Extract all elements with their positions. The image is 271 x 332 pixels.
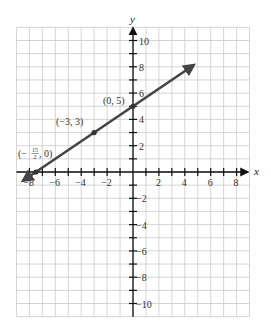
x-tick-label: −6 bbox=[49, 177, 60, 188]
y-tick-label: 6 bbox=[139, 88, 144, 99]
y-tick-label: 4 bbox=[139, 114, 144, 125]
svg-text:, 0): , 0) bbox=[39, 148, 52, 160]
y-axis-label: y bbox=[129, 13, 135, 25]
x-tick-label: −2 bbox=[101, 177, 112, 188]
y-tick-label: −10 bbox=[136, 299, 152, 310]
line-y-equals-two-thirds-x-plus-5 bbox=[23, 65, 194, 181]
x-tick-label: 6 bbox=[208, 177, 213, 188]
svg-text:(−: (− bbox=[18, 148, 27, 160]
x-axis-label: x bbox=[253, 165, 259, 177]
y-tick-label: 2 bbox=[139, 141, 144, 152]
y-tick-label: −6 bbox=[136, 246, 147, 257]
y-tick-label: −2 bbox=[136, 193, 147, 204]
y-tick-label: 10 bbox=[139, 36, 149, 47]
fraction-denominator: 2 bbox=[34, 154, 37, 160]
line-series bbox=[23, 65, 194, 181]
x-tick-label: 2 bbox=[156, 177, 161, 188]
x-tick-label: 4 bbox=[182, 177, 187, 188]
x-tick-label: 8 bbox=[234, 177, 239, 188]
coordinate-plane: −8−6−4−22468108642−2−4−6−8−10 y x (− 15 … bbox=[0, 0, 271, 332]
data-point bbox=[130, 104, 135, 109]
fraction-numerator: 15 bbox=[32, 147, 38, 153]
data-point bbox=[33, 169, 38, 174]
x-tick-label: −4 bbox=[75, 177, 86, 188]
axes bbox=[16, 28, 247, 317]
y-tick-label: −4 bbox=[136, 220, 147, 231]
point-label-x-intercept: (− 15 2 , 0) bbox=[18, 147, 52, 160]
point-label-neg3-3: (−3, 3) bbox=[56, 116, 83, 128]
y-tick-label: −8 bbox=[136, 272, 147, 283]
data-point bbox=[92, 130, 97, 135]
point-label-y-intercept: (0, 5) bbox=[103, 95, 125, 107]
y-tick-label: 8 bbox=[139, 62, 144, 73]
